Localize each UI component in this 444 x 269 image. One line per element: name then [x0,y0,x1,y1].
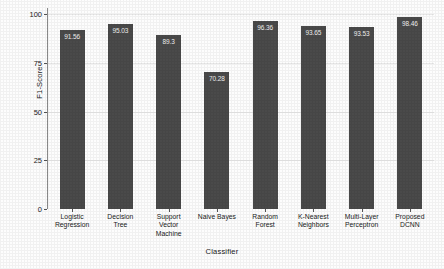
bar-chart-figure: F1-Score 0255075100 91.56LogisticRegress… [0,0,444,269]
bar-value-label: 91.56 [60,33,85,40]
x-axis-tick-label: Naive Bayes [193,213,241,221]
gridline [48,112,434,113]
x-axis-title: Classifier [0,247,444,256]
x-axis-tick-mark [265,209,266,212]
bar[interactable]: 98.46 [397,17,422,209]
bar[interactable]: 96.36 [253,21,278,209]
x-axis-tick-label: RandomForest [241,213,289,230]
bar-value-label: 70.28 [204,75,229,82]
x-axis-tick-label-line: Multi-Layer [338,213,386,221]
y-axis-tick-mark [44,160,47,161]
x-axis-tick-label-line: K-Nearest [289,213,337,221]
x-axis-tick-label-line: Decision [96,213,144,221]
x-axis-tick-label-line: Support [145,213,193,221]
y-axis-tick-mark [44,112,47,113]
bar-slot: 93.65K-NearestNeighbors [301,14,326,209]
y-axis-tick-mark [44,209,47,210]
x-axis-tick-label: Multi-LayerPerceptron [338,213,386,230]
x-axis-tick-label-line: Neighbors [289,221,337,229]
x-axis-tick-label: DecisionTree [96,213,144,230]
gridline [48,14,434,15]
x-axis-tick-label-line: Forest [241,221,289,229]
bar-slot: 96.36RandomForest [253,14,278,209]
x-axis-tick-mark [120,209,121,212]
x-axis-tick-label-line: Vector [145,221,193,229]
gridline [48,160,434,161]
x-axis-tick-label-line: Proposed [386,213,434,221]
bar-value-label: 98.46 [397,20,422,27]
x-axis-tick-mark [313,209,314,212]
bar-value-label: 95.03 [108,27,133,34]
x-axis-tick-label-line: Machine [145,230,193,238]
bar-slot: 95.03DecisionTree [108,14,133,209]
bar-slot: 89.3SupportVectorMachine [156,14,181,209]
x-axis-tick-mark [217,209,218,212]
bar-slot: 91.56LogisticRegression [60,14,85,209]
x-axis-tick-label: K-NearestNeighbors [289,213,337,230]
bar-value-label: 89.3 [156,38,181,45]
y-axis-tick-label: 25 [34,156,42,165]
y-axis-tick-mark [44,14,47,15]
plot-area: 0255075100 91.56LogisticRegression95.03D… [48,14,434,209]
y-axis-tick-label: 100 [29,10,42,19]
bar-value-label: 93.65 [301,29,326,36]
x-axis-tick-mark [169,209,170,212]
y-axis-tick-mark [44,63,47,64]
x-axis-tick-label: SupportVectorMachine [145,213,193,238]
bar-value-label: 93.53 [349,30,374,37]
bar[interactable]: 70.28 [204,72,229,209]
bar-slot: 70.28Naive Bayes [204,14,229,209]
x-axis-tick-label-line: Regression [48,221,96,229]
gridline [48,63,434,64]
x-axis-tick-label-line: DCNN [386,221,434,229]
x-axis-tick-mark [72,209,73,212]
bar[interactable]: 95.03 [108,24,133,209]
x-axis-tick-label-line: Perceptron [338,221,386,229]
y-axis-tick-label: 50 [34,107,42,116]
x-axis-tick-mark [410,209,411,212]
y-axis-line [47,8,48,209]
bar[interactable]: 89.3 [156,35,181,209]
bar-value-label: 96.36 [253,24,278,31]
x-axis-tick-label-line: Random [241,213,289,221]
x-axis-tick-label-line: Logistic [48,213,96,221]
bar[interactable]: 93.65 [301,26,326,209]
x-axis-tick-label-line: Naive Bayes [193,213,241,221]
bar[interactable]: 93.53 [349,27,374,209]
y-axis-tick-label: 75 [34,58,42,67]
x-axis-tick-mark [362,209,363,212]
y-axis-tick-label: 0 [38,205,42,214]
bar[interactable]: 91.56 [60,30,85,209]
x-axis-tick-label: LogisticRegression [48,213,96,230]
bar-slot: 98.46ProposedDCNN [397,14,422,209]
bar-slot: 93.53Multi-LayerPerceptron [349,14,374,209]
x-axis-tick-label: ProposedDCNN [386,213,434,230]
x-axis-tick-label-line: Tree [96,221,144,229]
